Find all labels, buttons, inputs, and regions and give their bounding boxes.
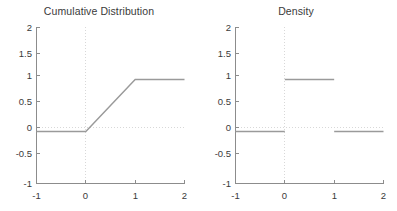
- y-tick-label-2-density: 2: [226, 22, 231, 33]
- y-tick-label-1p5-cdf: 1.5: [19, 48, 32, 59]
- y-tick-label-neg0p5-density: -0.5: [215, 148, 231, 159]
- x-tick-label-neg1-density: -1: [231, 190, 239, 201]
- x-tick-label-1-density: 1: [332, 190, 337, 201]
- y-tick-label-0p5-density: 0.5: [218, 96, 231, 107]
- x-tick-label-0-density: 0: [282, 190, 287, 201]
- y-tick-label-0-density: 0: [226, 122, 231, 133]
- y-tick-label-1-cdf: 1: [27, 70, 32, 81]
- plot-svg-density: 2 1.5 1 0.5 0 -0.5 -1 -1 0 1 2: [197, 0, 397, 211]
- x-tick-label-1-cdf: 1: [133, 190, 138, 201]
- y-tick-label-neg0p5-cdf: -0.5: [16, 148, 32, 159]
- x-tick-label-neg1-cdf: -1: [32, 190, 40, 201]
- data-series-cdf: [37, 80, 185, 132]
- y-tick-label-1-density: 1: [226, 70, 231, 81]
- x-tick-label-2-cdf: 2: [182, 190, 187, 201]
- x-tick-label-0-cdf: 0: [83, 190, 88, 201]
- figure-container: Cumulative Distribution 2 1.5 1: [0, 0, 397, 211]
- plot-svg-cdf: 2 1.5 1 0.5 0 -0.5 -1 -1 0 1 2: [0, 0, 198, 211]
- y-tick-label-0p5-cdf: 0.5: [19, 96, 32, 107]
- y-tick-label-2-cdf: 2: [27, 22, 32, 33]
- y-tick-label-0-cdf: 0: [27, 122, 32, 133]
- data-series-density: [236, 80, 384, 132]
- y-tick-label-neg1-density: -1: [223, 178, 231, 189]
- x-tick-label-2-density: 2: [381, 190, 386, 201]
- y-tick-label-neg1-cdf: -1: [24, 178, 32, 189]
- panel-density: Density 2 1.5 1 0.5: [197, 0, 395, 211]
- panel-cumulative-distribution: Cumulative Distribution 2 1.5 1: [0, 0, 198, 211]
- y-tick-label-1p5-density: 1.5: [218, 48, 231, 59]
